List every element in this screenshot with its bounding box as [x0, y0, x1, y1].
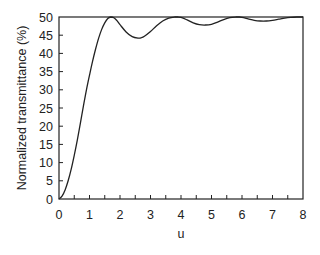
y-tick-label: 25 — [39, 102, 53, 116]
x-tick-label: 1 — [86, 208, 93, 222]
transmittance-curve — [59, 17, 303, 199]
x-tick-label: 4 — [178, 208, 185, 222]
y-tick-label: 30 — [39, 83, 53, 97]
x-tick-label: 3 — [147, 208, 154, 222]
chart: 05101520253035404550 012345678 u Normali… — [0, 0, 320, 255]
y-tick-label: 20 — [39, 120, 53, 134]
x-tick-label: 8 — [300, 208, 307, 222]
plot-frame — [59, 17, 303, 199]
y-tick-label: 15 — [39, 138, 53, 152]
y-tick-label: 50 — [39, 11, 53, 25]
x-tick-label: 5 — [208, 208, 215, 222]
x-axis-tick-labels: 012345678 — [56, 208, 307, 222]
y-tick-label: 45 — [39, 29, 53, 43]
x-tick-label: 2 — [117, 208, 124, 222]
y-axis-title: Normalized transmittance (%) — [15, 26, 29, 191]
x-tick-label: 0 — [56, 208, 63, 222]
y-tick-label: 10 — [39, 156, 53, 170]
y-tick-label: 35 — [39, 65, 53, 79]
y-tick-label: 5 — [46, 174, 53, 188]
x-axis-title: u — [178, 227, 185, 241]
y-tick-label: 0 — [46, 193, 53, 207]
x-tick-label: 7 — [269, 208, 276, 222]
y-axis-tick-labels: 05101520253035404550 — [39, 11, 53, 207]
x-tick-label: 6 — [239, 208, 246, 222]
y-tick-label: 40 — [39, 47, 53, 61]
x-axis-ticks — [74, 195, 288, 199]
